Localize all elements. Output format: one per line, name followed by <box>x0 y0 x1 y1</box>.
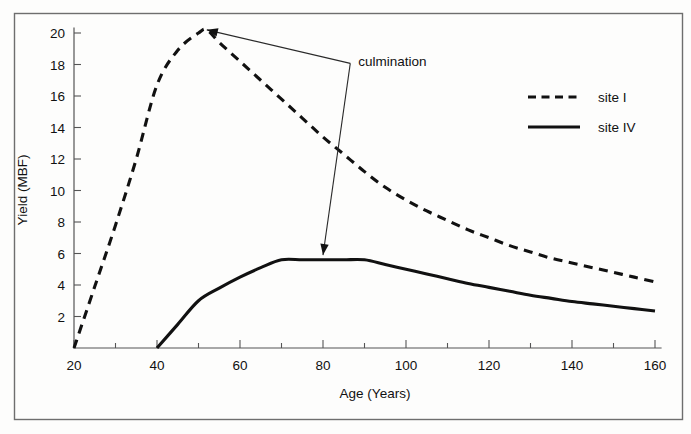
legend-label-site-i: site I <box>598 90 627 105</box>
annotation-label-culmination: culmination <box>358 54 426 69</box>
x-tick-label-20: 20 <box>66 358 81 373</box>
y-tick-label-2: 2 <box>57 310 65 325</box>
y-tick-label-6: 6 <box>57 247 65 262</box>
y-tick-label-16: 16 <box>50 89 65 104</box>
x-tick-label-60: 60 <box>232 358 247 373</box>
data-series <box>74 29 655 348</box>
y-tick-label-4: 4 <box>57 278 65 293</box>
chart-figure: 2468101214161820 20406080100120140160 Yi… <box>0 0 691 434</box>
chart-canvas: 2468101214161820 20406080100120140160 Yi… <box>0 0 691 434</box>
x-tick-label-40: 40 <box>149 358 164 373</box>
y-tick-label-18: 18 <box>50 58 65 73</box>
x-tick-label-140: 140 <box>561 358 584 373</box>
x-tick-label-100: 100 <box>395 358 418 373</box>
x-axis-title: Age (Years) <box>340 386 411 401</box>
x-axis-ticks: 20406080100120140160 <box>66 340 666 373</box>
series-line-site-iv <box>157 259 655 348</box>
legend-label-site-iv: site IV <box>598 120 636 135</box>
y-tick-label-20: 20 <box>50 26 65 41</box>
annotation-leader-2 <box>323 63 350 255</box>
y-tick-label-12: 12 <box>50 152 65 167</box>
annotation-arrowhead-2 <box>320 244 328 255</box>
x-tick-label-160: 160 <box>644 358 667 373</box>
annotation-leader-1 <box>207 30 350 64</box>
chart-legend: site Isite IV <box>528 90 636 135</box>
y-axis-title: Yield (MBF) <box>15 155 30 226</box>
y-tick-label-8: 8 <box>57 215 65 230</box>
y-tick-label-14: 14 <box>50 121 66 136</box>
y-axis-ticks: 2468101214161820 <box>50 26 81 325</box>
annotations: culmination <box>207 28 427 255</box>
y-tick-label-10: 10 <box>50 184 65 199</box>
x-tick-label-80: 80 <box>315 358 330 373</box>
x-tick-label-120: 120 <box>478 358 501 373</box>
